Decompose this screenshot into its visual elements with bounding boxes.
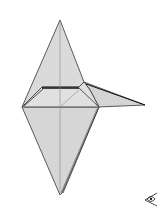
eye-view-symbol <box>145 193 157 206</box>
origami-figure <box>0 0 161 210</box>
origami-diagram <box>0 0 161 210</box>
lower-body <box>22 107 99 195</box>
